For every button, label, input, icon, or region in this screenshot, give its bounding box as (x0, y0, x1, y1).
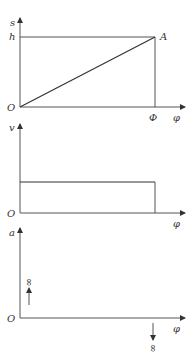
origin-label: O (7, 313, 15, 324)
s-label: s (10, 17, 15, 28)
acceleration-graph: a O φ ∞ ∞ (7, 227, 185, 352)
a-point-label: A (159, 31, 167, 42)
infinity-bottom-label: ∞ (148, 344, 159, 352)
v-label: v (9, 122, 15, 133)
displacement-graph: s h A O Φ φ (7, 17, 185, 123)
phi-label: φ (173, 112, 180, 123)
phi-label: φ (173, 218, 180, 229)
velocity-graph: v O φ (7, 122, 185, 229)
phi-label: φ (173, 323, 180, 334)
displacement-curve (20, 37, 155, 107)
origin-label: O (7, 208, 15, 219)
motion-diagram: s h A O Φ φ v O φ a O φ ∞ ∞ (0, 0, 194, 364)
Phi-label: Φ (149, 112, 157, 123)
h-label: h (9, 31, 15, 42)
a-label: a (9, 227, 15, 238)
infinity-top-label: ∞ (24, 278, 35, 286)
origin-label: O (7, 102, 15, 113)
